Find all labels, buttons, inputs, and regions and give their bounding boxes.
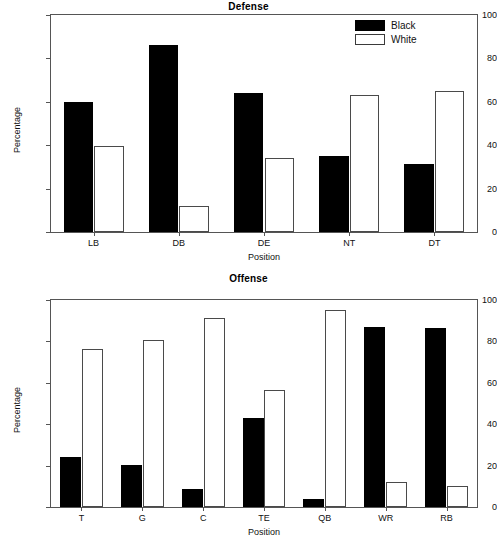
y-axis-tick-label: 80 [456, 53, 497, 63]
x-axis-tick-mark [349, 232, 350, 236]
legend-item-white: White [355, 34, 417, 45]
bar-wr-white [386, 482, 407, 507]
y-axis-tick-label: 80 [456, 336, 497, 346]
y-axis-tick-mark [46, 507, 50, 508]
bar-qb-black [303, 499, 324, 507]
bar-c-black [182, 489, 203, 507]
y-axis-tick-label: 0 [456, 227, 497, 237]
legend-swatch-black [355, 20, 385, 31]
y-axis-tick-mark [46, 145, 50, 146]
x-axis-tick-label: C [200, 513, 207, 523]
bar-g-black [121, 465, 142, 507]
bar-lb-white [94, 146, 123, 232]
y-axis-tick-mark [46, 15, 50, 16]
x-axis-tick-mark [81, 507, 82, 511]
x-axis-tick-label: WR [378, 513, 393, 523]
bar-dt-black [404, 164, 433, 232]
y-axis-tick-mark [46, 424, 50, 425]
legend-label: Black [391, 20, 415, 31]
chart-title-offense: Offense [0, 273, 497, 284]
bar-de-white [265, 158, 294, 232]
bar-c-white [204, 318, 225, 507]
bar-t-white [82, 349, 103, 507]
chart-legend: BlackWhite [355, 20, 417, 45]
bar-qb-white [325, 310, 346, 507]
x-axis-label: Position [248, 527, 280, 537]
bar-lb-black [64, 102, 93, 232]
y-axis-tick-label: 20 [456, 461, 497, 471]
bar-t-black [60, 457, 81, 507]
y-axis-tick-label: 40 [456, 140, 497, 150]
y-axis-tick-label: 40 [456, 419, 497, 429]
bar-te-black [243, 418, 264, 507]
x-axis-tick-label: TE [258, 513, 270, 523]
y-axis-tick-label: 100 [456, 10, 497, 20]
plot-area-defense [51, 15, 477, 232]
x-axis-tick-label: DB [173, 238, 186, 248]
bar-db-white [179, 206, 208, 232]
x-axis-label: Position [248, 252, 280, 262]
bar-rb-black [425, 328, 446, 507]
bar-nt-white [350, 95, 379, 232]
x-axis-tick-mark [179, 232, 180, 236]
y-axis-tick-mark [46, 300, 50, 301]
x-axis-tick-mark [325, 507, 326, 511]
y-axis-tick-label: 60 [456, 378, 497, 388]
y-axis-tick-mark [46, 58, 50, 59]
legend-swatch-white [355, 34, 385, 45]
bar-db-black [149, 45, 178, 232]
x-axis-tick-mark [447, 507, 448, 511]
y-axis-tick-mark [46, 341, 50, 342]
y-axis-label: Percentage [12, 386, 22, 432]
y-axis-label: Percentage [12, 106, 22, 152]
y-axis-tick-mark [46, 466, 50, 467]
chart-panel-defense: Defense 020406080100PercentageLBDBDENTDT… [0, 0, 497, 272]
y-axis-tick-label: 60 [456, 97, 497, 107]
x-axis-tick-mark [264, 232, 265, 236]
plot-frame-offense [50, 299, 478, 508]
chart-title-defense: Defense [0, 1, 497, 12]
bar-g-white [143, 340, 164, 507]
x-axis-tick-mark [434, 232, 435, 236]
x-axis-tick-label: DT [428, 238, 440, 248]
y-axis-tick-mark [46, 102, 50, 103]
bar-de-black [234, 93, 263, 232]
bar-nt-black [319, 156, 348, 232]
x-axis-tick-mark [264, 507, 265, 511]
bar-dt-white [435, 91, 464, 232]
chart-panel-offense: Offense 020406080100PercentageTGCTEQBWRR… [0, 272, 497, 544]
x-axis-tick-mark [203, 507, 204, 511]
x-axis-tick-mark [94, 232, 95, 236]
x-axis-tick-mark [142, 507, 143, 511]
figure-page: Defense 020406080100PercentageLBDBDENTDT… [0, 0, 497, 544]
legend-item-black: Black [355, 20, 417, 31]
x-axis-tick-label: RB [440, 513, 453, 523]
plot-area-offense [51, 300, 477, 507]
y-axis-tick-label: 20 [456, 184, 497, 194]
x-axis-tick-label: LB [88, 238, 99, 248]
plot-frame-defense [50, 14, 478, 233]
x-axis-tick-label: T [79, 513, 85, 523]
x-axis-tick-label: DE [258, 238, 271, 248]
bar-wr-black [364, 327, 385, 507]
y-axis-tick-mark [46, 189, 50, 190]
y-axis-tick-label: 0 [456, 502, 497, 512]
y-axis-tick-mark [46, 383, 50, 384]
x-axis-tick-label: NT [343, 238, 355, 248]
x-axis-tick-label: G [139, 513, 146, 523]
y-axis-tick-label: 100 [456, 295, 497, 305]
legend-label: White [391, 34, 417, 45]
x-axis-tick-mark [386, 507, 387, 511]
x-axis-tick-label: QB [318, 513, 331, 523]
bar-te-white [264, 390, 285, 507]
y-axis-tick-mark [46, 232, 50, 233]
